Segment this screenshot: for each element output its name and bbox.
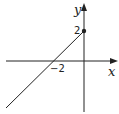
x-axis-label: x [108, 64, 116, 79]
y-intercept-point [82, 29, 86, 33]
chart-graph: y x 2 −2 [0, 0, 119, 114]
y-axis-arrow-icon [81, 3, 87, 11]
x-intercept-label: −2 [50, 63, 65, 74]
y-axis-label: y [73, 2, 82, 17]
y-intercept-label: 2 [74, 25, 80, 36]
graph-line [6, 31, 84, 108]
